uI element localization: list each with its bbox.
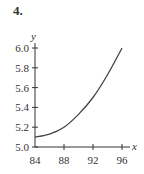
x-tick-label: 88 [59, 154, 71, 166]
x-tick-label: 96 [117, 154, 129, 166]
x-axis-label: x [131, 140, 137, 152]
y-tick-label: 6.0 [15, 42, 29, 54]
y-tick-label: 5.2 [15, 121, 29, 133]
y-tick-label: 5.4 [15, 101, 29, 113]
y-tick-label: 5.8 [15, 62, 29, 74]
y-tick-label: 5.0 [15, 141, 29, 153]
y-axis-label: y [30, 30, 36, 42]
y-tick-label: 5.6 [15, 82, 29, 94]
chart: 5.05.25.45.65.86.0 84889296 y x [0, 0, 144, 174]
x-tick-label: 92 [88, 154, 99, 166]
x-tick-label: 84 [30, 154, 42, 166]
data-curve [35, 48, 122, 137]
